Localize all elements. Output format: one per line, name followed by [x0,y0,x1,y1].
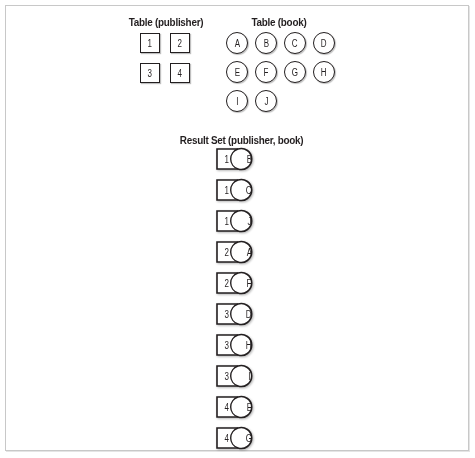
result-book-value: E [239,396,259,418]
book-row-a: A [226,32,248,54]
result-book-value: I [239,365,259,387]
book-row-c: C [284,32,306,54]
book-table-title: Table (book) [240,16,317,28]
result-book-value: B [239,148,259,170]
result-publisher-value: 2 [216,272,238,294]
result-row: 4E [216,396,260,418]
book-row-f: F [255,61,277,83]
book-row-h: H [313,61,335,83]
publisher-table-title: Table (publisher) [125,16,208,28]
result-publisher-value: 3 [216,365,238,387]
result-publisher-value: 2 [216,241,238,263]
result-book-value: D [239,303,259,325]
result-publisher-value: 1 [216,148,238,170]
result-set-title: Result Set (publisher, book) [180,134,300,146]
result-publisher-value: 4 [216,396,238,418]
result-publisher-value: 3 [216,334,238,356]
result-publisher-value: 3 [216,303,238,325]
book-row-e: E [226,61,248,83]
result-book-value: F [239,272,259,294]
publisher-row-3: 3 [140,63,160,83]
result-book-value: A [239,241,259,263]
result-publisher-value: 1 [216,179,238,201]
book-row-i: I [226,90,248,112]
result-row: 1B [216,148,260,170]
book-row-g: G [284,61,306,83]
result-row: 2A [216,241,260,263]
result-row: 4G [216,427,260,449]
result-row: 1J [216,210,260,232]
result-book-value: J [239,210,259,232]
result-row: 3D [216,303,260,325]
book-row-b: B [255,32,277,54]
result-publisher-value: 4 [216,427,238,449]
result-row: 3I [216,365,260,387]
book-row-d: D [313,32,335,54]
result-row: 1C [216,179,260,201]
result-row: 3H [216,334,260,356]
result-book-value: G [239,427,259,449]
result-book-value: H [239,334,259,356]
publisher-row-4: 4 [170,63,190,83]
book-row-j: J [255,90,277,112]
result-row: 2F [216,272,260,294]
result-publisher-value: 1 [216,210,238,232]
result-book-value: C [239,179,259,201]
publisher-row-2: 2 [170,33,190,53]
publisher-row-1: 1 [140,33,160,53]
